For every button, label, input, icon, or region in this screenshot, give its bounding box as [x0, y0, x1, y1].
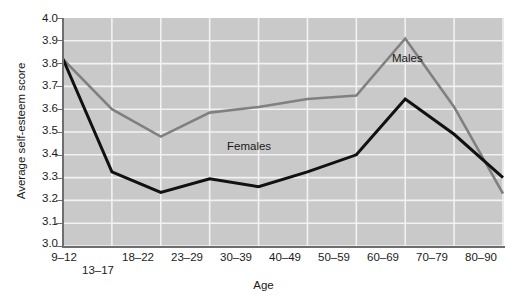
x-tick-label: 60–69	[357, 252, 409, 264]
y-axis-title: Average self-esteem score	[15, 31, 27, 231]
plot-area	[63, 18, 504, 246]
x-tick-label: 23–29	[161, 252, 213, 264]
y-tick-label: 4.0	[10, 13, 58, 25]
series-annotation-males: Males	[392, 52, 423, 64]
y-tick-label: 3.0	[10, 238, 58, 250]
y-axis-line	[62, 18, 64, 247]
x-axis-title: Age	[0, 279, 527, 291]
x-tick-label: 70–79	[406, 252, 458, 264]
x-axis-line	[62, 246, 505, 248]
chart-figure: 4.0 3.9 3.8 3.7 3.6 3.5 3.4 3.3 3.2 3.1 …	[0, 0, 527, 303]
series-line-females	[63, 59, 503, 192]
plot-canvas	[63, 18, 504, 246]
horizontal-gridlines	[63, 41, 504, 246]
x-tick-label: 30–39	[210, 252, 262, 264]
x-tick-label: 9–12	[42, 252, 86, 264]
x-tick-label: 18–22	[112, 252, 164, 264]
x-tick-label: 80–90	[455, 252, 507, 264]
x-tick-label: 13–17	[73, 265, 123, 277]
x-tick-label: 50–59	[308, 252, 360, 264]
series-line-males	[63, 39, 503, 194]
series-annotation-females: Females	[227, 140, 271, 152]
x-tick-label: 40–49	[259, 252, 311, 264]
